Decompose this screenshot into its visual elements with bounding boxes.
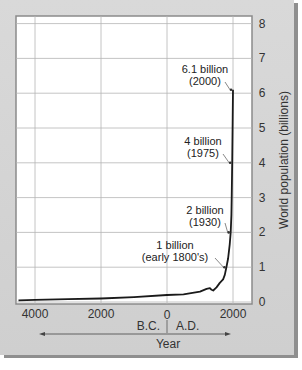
annotation-value: 1 billion bbox=[156, 239, 193, 251]
annotation-year: (2000) bbox=[189, 75, 221, 87]
annotation-point-icon bbox=[229, 162, 232, 165]
annotation-point-icon bbox=[230, 88, 233, 91]
arrow-right-icon bbox=[225, 332, 231, 336]
ad-label: A.D. bbox=[176, 319, 199, 333]
x-axis-ticks: 4000200002000 bbox=[22, 307, 247, 322]
x-tick-label: 0 bbox=[164, 308, 171, 322]
y-tick-label: 4 bbox=[259, 156, 266, 170]
y-tick-label: 1 bbox=[259, 260, 266, 274]
y-tick-label: 5 bbox=[259, 121, 266, 135]
annotation-year: (1930) bbox=[189, 216, 221, 228]
y-tick-label: 3 bbox=[259, 191, 266, 205]
plot-area bbox=[16, 16, 252, 304]
y-tick-label: 6 bbox=[259, 86, 266, 100]
y-tick-label: 8 bbox=[259, 17, 266, 31]
annotation-point-icon bbox=[223, 266, 226, 269]
x-axis-title: Year bbox=[156, 337, 180, 351]
x-tick-label: 2000 bbox=[220, 307, 247, 321]
annotation-point-icon bbox=[227, 231, 230, 234]
y-tick-label: 7 bbox=[259, 51, 266, 65]
annotation-year: (early 1800's) bbox=[142, 251, 208, 263]
y-tick-label: 0 bbox=[259, 295, 266, 309]
y-axis-title: World population (billions) bbox=[277, 91, 291, 229]
annotation-year: (1975) bbox=[187, 147, 219, 159]
annotation-value: 2 billion bbox=[186, 204, 223, 216]
x-tick-label: 2000 bbox=[88, 307, 115, 321]
annotation-value: 4 billion bbox=[184, 135, 221, 147]
annotation-value: 6.1 billion bbox=[182, 63, 228, 75]
x-tick-label: 4000 bbox=[22, 307, 49, 321]
arrow-left-icon bbox=[39, 332, 45, 336]
y-tick-label: 2 bbox=[259, 225, 266, 239]
population-chart: 6.1 billion(2000)4 billion(1975)2 billio… bbox=[0, 0, 302, 370]
bc-label: B.C. bbox=[137, 319, 160, 333]
y-axis-ticks: 012345678 bbox=[259, 17, 266, 309]
